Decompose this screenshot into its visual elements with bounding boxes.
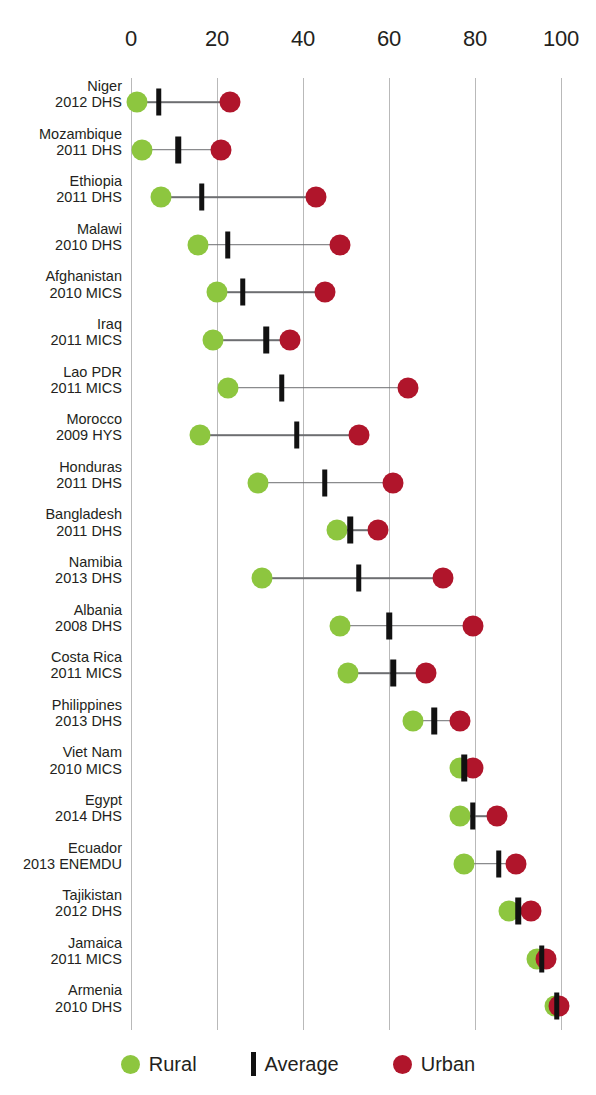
row-label: Philippines2013 DHS [0, 697, 122, 729]
rural-dot [189, 425, 210, 446]
range-connector-line [161, 196, 316, 198]
row-label: Honduras2011 DHS [0, 459, 122, 491]
row-country-label: Armenia [0, 982, 122, 998]
range-connector-line [200, 434, 359, 436]
average-marker [240, 279, 246, 306]
row-survey-label: 2012 DHS [0, 903, 122, 919]
chart-row: Iraq2011 MICS [0, 316, 596, 364]
range-connector-line [464, 863, 516, 865]
urban-dot [383, 472, 404, 493]
urban-dot [548, 996, 569, 1017]
legend-label: Average [265, 1053, 339, 1076]
chart-row: Malawi2010 DHS [0, 221, 596, 269]
row-country-label: Malawi [0, 221, 122, 237]
row-label: Mozambique2011 DHS [0, 126, 122, 158]
range-connector-line [228, 387, 409, 389]
rural-dot [131, 139, 152, 160]
row-label: Jamaica2011 MICS [0, 935, 122, 967]
urban-dot [348, 425, 369, 446]
chart-row: Jamaica2011 MICS [0, 935, 596, 983]
average-marker [539, 945, 545, 972]
row-country-label: Egypt [0, 792, 122, 808]
row-country-label: Ethiopia [0, 173, 122, 189]
row-label: Albania2008 DHS [0, 602, 122, 634]
row-survey-label: 2011 MICS [0, 380, 122, 396]
legend-label: Rural [149, 1053, 197, 1076]
row-country-label: Ecuador [0, 840, 122, 856]
rural-dot-icon [121, 1055, 140, 1074]
urban-dot [520, 901, 541, 922]
rural-dot [207, 282, 228, 303]
chart-row: Morocco2009 HYS [0, 411, 596, 459]
average-marker [199, 184, 205, 211]
x-axis: 020406080100 [0, 0, 596, 60]
urban-dot [415, 663, 436, 684]
rural-dot [544, 996, 565, 1017]
row-survey-label: 2010 DHS [0, 999, 122, 1015]
chart-row: Bangladesh2011 DHS [0, 506, 596, 554]
legend-item: Urban [393, 1053, 475, 1076]
row-survey-label: 2013 DHS [0, 570, 122, 586]
range-connector-line [258, 482, 393, 484]
urban-dot-icon [393, 1055, 412, 1074]
legend-label: Urban [421, 1053, 475, 1076]
row-survey-label: 2010 DHS [0, 237, 122, 253]
row-country-label: Jamaica [0, 935, 122, 951]
row-label: Ecuador2013 ENEMDU [0, 840, 122, 872]
row-survey-label: 2011 DHS [0, 523, 122, 539]
range-connector-line [509, 910, 531, 912]
legend-item: Rural [121, 1053, 197, 1076]
row-label: Costa Rica2011 MICS [0, 649, 122, 681]
chart-rows: Niger2012 DHSMozambique2011 DHSEthiopia2… [0, 0, 596, 1095]
range-connector-line [213, 339, 290, 341]
row-country-label: Lao PDR [0, 364, 122, 380]
rural-dot [329, 615, 350, 636]
rural-dot [202, 330, 223, 351]
x-axis-tick-label: 0 [125, 26, 137, 52]
range-connector-line [340, 625, 473, 627]
chart-row: Lao PDR2011 MICS [0, 364, 596, 412]
average-bar-icon [251, 1052, 256, 1076]
range-connector-line [262, 577, 443, 579]
average-marker [496, 850, 502, 877]
chart-row: Ethiopia2011 DHS [0, 173, 596, 221]
urban-dot [486, 806, 507, 827]
rural-dot [449, 758, 470, 779]
rural-dot [454, 853, 475, 874]
row-country-label: Albania [0, 602, 122, 618]
chart-row: Philippines2013 DHS [0, 697, 596, 745]
row-country-label: Niger [0, 78, 122, 94]
average-marker [386, 612, 392, 639]
chart-row: Costa Rica2011 MICS [0, 649, 596, 697]
x-axis-tick-label: 100 [543, 26, 579, 52]
urban-dot [280, 330, 301, 351]
rural-dot [187, 234, 208, 255]
rural-dot [127, 92, 148, 113]
urban-dot [314, 282, 335, 303]
row-country-label: Namibia [0, 554, 122, 570]
row-country-label: Iraq [0, 316, 122, 332]
range-connector-line [413, 720, 460, 722]
row-country-label: Viet Nam [0, 744, 122, 760]
rural-dot [338, 663, 359, 684]
row-country-label: Bangladesh [0, 506, 122, 522]
row-survey-label: 2013 ENEMDU [0, 856, 122, 872]
chart-row: Ecuador2013 ENEMDU [0, 840, 596, 888]
gridline [217, 78, 218, 1030]
row-country-label: Afghanistan [0, 268, 122, 284]
x-axis-tick-label: 40 [291, 26, 315, 52]
row-label: Bangladesh2011 DHS [0, 506, 122, 538]
average-marker [348, 517, 354, 544]
row-label: Namibia2013 DHS [0, 554, 122, 586]
average-marker [176, 136, 182, 163]
row-country-label: Costa Rica [0, 649, 122, 665]
gridline [475, 78, 476, 1030]
row-label: Egypt2014 DHS [0, 792, 122, 824]
x-axis-tick-label: 20 [205, 26, 229, 52]
average-marker [225, 231, 231, 258]
dot-plot-chart: 020406080100 Niger2012 DHSMozambique2011… [0, 0, 596, 1095]
row-label: Niger2012 DHS [0, 78, 122, 110]
row-country-label: Tajikistan [0, 887, 122, 903]
range-connector-line [460, 768, 473, 770]
legend-item: Average [251, 1052, 339, 1076]
